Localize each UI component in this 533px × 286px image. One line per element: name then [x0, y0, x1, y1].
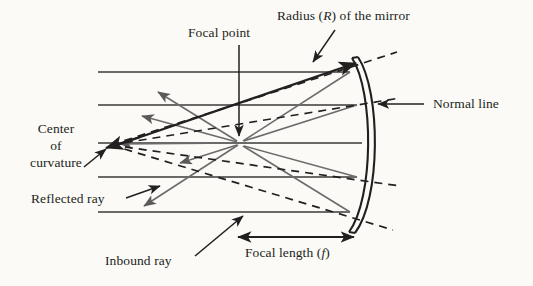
label-inbound-ray: Inbound ray [105, 253, 172, 268]
leader-radius [313, 30, 335, 62]
label-focal-point: Focal point [188, 25, 250, 40]
mirror-ray-diagram: Focal point Radius (R) of the mirror Nor… [0, 0, 533, 286]
normal-lines-group [111, 52, 400, 230]
mirror-arc-front [349, 58, 368, 232]
leader-inbound-ray [195, 216, 243, 256]
mirror-cap-bottom [349, 232, 355, 233]
leader-reflected-ray [126, 186, 160, 198]
reflected-ray-from-bottom-1 [244, 146, 357, 177]
label-radius-of-mirror: Radius (R) of the mirror [277, 8, 410, 23]
mirror-arc [349, 57, 375, 233]
label-radius-prefix: Radius ( [277, 8, 323, 23]
reflected-ray-tail-1 [144, 145, 238, 206]
mirror-arc-back [355, 57, 375, 233]
label-radius-suffix: ) of the mirror [332, 8, 410, 23]
label-center-line3: curvature [30, 155, 82, 170]
mirror-cap-top [352, 57, 358, 58]
reflected-ray-axial [120, 143, 238, 144]
label-center-line1: Center [38, 121, 75, 136]
normal-line-4 [111, 145, 393, 230]
reflected-ray-from-bottom-2 [243, 146, 350, 212]
label-center-line2: of [50, 138, 61, 153]
normal-line-3 [111, 145, 400, 186]
radius-line [117, 63, 356, 145]
label-reflected-ray: Reflected ray [31, 191, 105, 206]
label-normal-line: Normal line [433, 96, 499, 111]
label-center-of-curvature: Center of curvature [14, 120, 98, 171]
label-focal-length-prefix: Focal length ( [245, 245, 321, 260]
label-focal-length-suffix: ) [325, 245, 330, 260]
inbound-rays-group [98, 72, 362, 212]
label-radius-symbol: R [323, 8, 331, 23]
reflected-ray-from-top-2 [244, 105, 357, 141]
reflected-ray-tail-2 [180, 145, 237, 163]
label-focal-length: Focal length (f) [245, 245, 330, 260]
